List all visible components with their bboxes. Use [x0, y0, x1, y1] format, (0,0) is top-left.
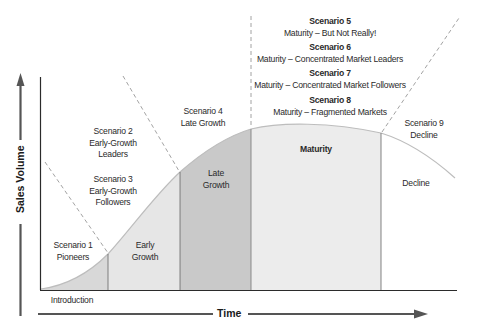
- stage-introduction: Introduction: [51, 295, 94, 307]
- y-arrowhead-icon: [17, 73, 25, 86]
- scenario-4-title: Scenario 4: [181, 106, 226, 118]
- stage-decline: Decline: [402, 178, 429, 190]
- scenario-6-title: Scenario 6: [257, 42, 403, 54]
- scenario-4-label: Scenario 4 Late Growth: [181, 106, 226, 129]
- scenario-2-label: Scenario 2 Early-Growth Leaders: [89, 126, 137, 161]
- scenario-8-label: Scenario 8 Maturity – Fragmented Markets: [273, 95, 387, 118]
- stage-late-growth-line2: Growth: [203, 180, 230, 192]
- scenario-5-label: Scenario 5 Maturity – But Not Really!: [284, 16, 376, 39]
- scenario-7-title: Scenario 7: [254, 68, 406, 80]
- scenario-3-title: Scenario 3: [89, 174, 137, 186]
- stage-early-growth: Early Growth: [132, 240, 159, 263]
- scenario-1-label: Scenario 1 Pioneers: [53, 240, 92, 263]
- scenario-8-title: Scenario 8: [273, 95, 387, 107]
- scenario-2-title: Scenario 2: [89, 126, 137, 138]
- scenario-6-desc: Maturity – Concentrated Market Leaders: [257, 54, 403, 64]
- scenario-9-label: Scenario 9 Decline: [404, 118, 443, 141]
- scenario-3-label: Scenario 3 Early-Growth Followers: [89, 174, 137, 209]
- x-arrowhead-icon: [414, 310, 428, 319]
- scenario-6-label: Scenario 6 Maturity – Concentrated Marke…: [257, 42, 403, 65]
- y-axis-title: Sales Volume: [14, 149, 26, 213]
- stage-early-growth-line1: Early: [132, 240, 159, 252]
- scenario-9-title: Scenario 9: [404, 118, 443, 130]
- scenario-3-desc1: Early-Growth: [89, 186, 137, 198]
- scenario-3-desc2: Followers: [89, 197, 137, 209]
- x-axis-title: Time: [217, 307, 241, 319]
- stage-early-growth-line2: Growth: [132, 252, 159, 264]
- maturity-fill: [251, 100, 381, 290]
- scenario-1-desc: Pioneers: [53, 252, 92, 264]
- scenario-4-desc: Late Growth: [181, 118, 226, 130]
- stage-late-growth-line1: Late: [203, 168, 230, 180]
- scenario-5-title: Scenario 5: [284, 16, 376, 28]
- scenario-8-desc: Maturity – Fragmented Markets: [273, 107, 387, 117]
- life-cycle-diagram: [0, 0, 480, 328]
- scenario-2-desc2: Leaders: [89, 149, 137, 161]
- stage-late-growth: Late Growth: [203, 168, 230, 191]
- scenario-9-desc: Decline: [404, 130, 443, 142]
- stage-maturity: Maturity: [300, 144, 332, 156]
- scenario-7-desc: Maturity – Concentrated Market Followers: [254, 80, 406, 90]
- scenario-1-title: Scenario 1: [53, 240, 92, 252]
- scenario-2-desc1: Early-Growth: [89, 138, 137, 150]
- scenario-7-label: Scenario 7 Maturity – Concentrated Marke…: [254, 68, 406, 91]
- scenario-5-desc: Maturity – But Not Really!: [284, 28, 376, 38]
